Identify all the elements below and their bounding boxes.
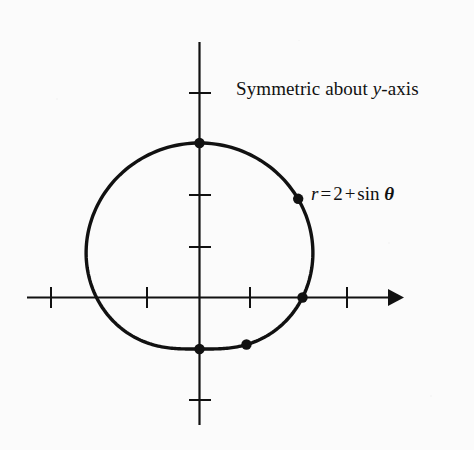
equation-plus: + [343, 183, 358, 204]
x-axis-arrowhead [388, 289, 404, 306]
equation-constant: 2 [333, 183, 343, 204]
curve-marked-point [194, 138, 204, 148]
equation-annotation: r=2+sin θ [311, 183, 394, 205]
curve-marked-point [241, 339, 251, 349]
curve-marked-point [194, 344, 204, 354]
equation-theta: θ [384, 183, 394, 204]
equation-equals: = [318, 183, 333, 204]
symmetry-annotation: Symmetric about y-axis [236, 78, 419, 100]
curve-marked-point [293, 194, 303, 204]
curve-marked-point [297, 292, 307, 302]
equation-trig: sin [357, 183, 379, 204]
symmetry-suffix: -axis [381, 78, 418, 99]
symmetry-variable: y [373, 78, 382, 99]
symmetry-prefix: Symmetric about [236, 78, 373, 99]
marked-points-group [194, 138, 307, 354]
polar-curve-figure [0, 0, 474, 450]
